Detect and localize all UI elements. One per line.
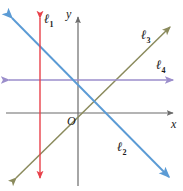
origin-label: O <box>67 115 76 127</box>
graph-canvas <box>0 0 183 191</box>
line-label-l1: ℓ1 <box>44 12 54 29</box>
line-label-l3: ℓ3 <box>141 28 151 45</box>
x-axis-label: x <box>171 118 176 130</box>
coordinate-plane-figure: ℓ1 ℓ2 ℓ3 ℓ4 x y O <box>0 0 183 191</box>
y-axis-label: y <box>66 8 71 20</box>
line-label-l4: ℓ4 <box>156 58 166 75</box>
line-label-l2: ℓ2 <box>117 140 127 157</box>
